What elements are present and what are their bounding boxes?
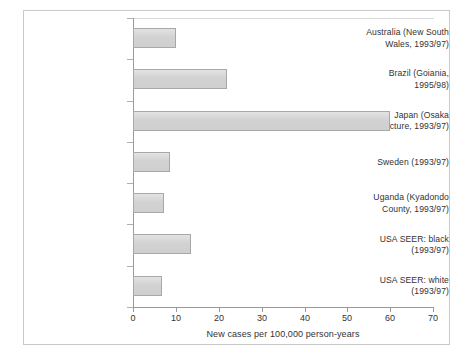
x-axis-tick — [433, 307, 434, 312]
bar — [133, 111, 390, 131]
plot-area — [133, 18, 433, 307]
x-axis-tick — [262, 307, 263, 312]
x-tick-label: 50 — [332, 313, 362, 323]
x-axis-title: New cases per 100,000 person-years — [133, 329, 433, 339]
x-tick-label: 40 — [290, 313, 320, 323]
bar — [133, 28, 176, 48]
bar-row — [133, 59, 433, 100]
bar-row — [133, 266, 433, 307]
x-axis-tick — [219, 307, 220, 312]
x-axis-tick — [176, 307, 177, 312]
x-axis-tick — [390, 307, 391, 312]
x-axis-tick — [305, 307, 306, 312]
chart-figure: 0 10 20 30 40 50 60 70 New cases per 100… — [23, 10, 450, 345]
bar-row — [133, 142, 433, 183]
x-tick-label: 30 — [247, 313, 277, 323]
bar — [133, 276, 162, 296]
bar-row — [133, 224, 433, 265]
x-tick-label: 0 — [118, 313, 148, 323]
x-axis-line — [133, 307, 434, 308]
bar-row — [133, 18, 433, 59]
bar-row — [133, 101, 433, 142]
x-axis-tick — [347, 307, 348, 312]
x-tick-label: 60 — [375, 313, 405, 323]
x-tick-label: 70 — [418, 313, 448, 323]
x-tick-label: 10 — [161, 313, 191, 323]
bar-row — [133, 183, 433, 224]
bar — [133, 234, 191, 254]
x-axis-tick — [133, 307, 134, 312]
bar — [133, 193, 164, 213]
x-tick-label: 20 — [204, 313, 234, 323]
bar — [133, 152, 170, 172]
bar — [133, 69, 227, 89]
